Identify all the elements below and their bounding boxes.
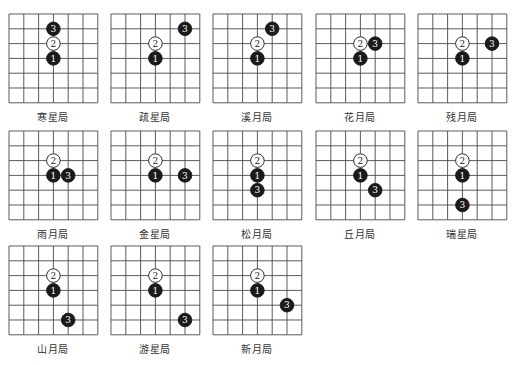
move-number: 1 (358, 54, 364, 64)
white-stone-2: 2 (354, 37, 368, 51)
opening-name-label: 溪月局 (206, 109, 308, 124)
move-number: 3 (182, 171, 188, 181)
opening-name-label: 寒星局 (2, 109, 104, 124)
white-stone-2: 2 (354, 154, 368, 168)
opening-name-label: 游星局 (104, 341, 206, 356)
move-number: 1 (255, 171, 261, 181)
go-board-grid: 123 (212, 13, 301, 102)
go-board-grid: 123 (212, 130, 301, 219)
opening-name-label: 山月局 (2, 341, 104, 356)
black-stone-1: 1 (354, 169, 368, 183)
board-11: 123山月局 (8, 245, 98, 363)
black-stone-1: 1 (251, 169, 265, 183)
black-stone-3: 3 (265, 22, 279, 36)
move-number: 2 (358, 156, 364, 166)
move-number: 1 (51, 54, 57, 64)
board-7: 123金星局 (110, 130, 200, 248)
black-stone-3: 3 (61, 169, 75, 183)
black-stone-1: 1 (456, 169, 470, 183)
board-2: 123疏星局 (110, 13, 200, 131)
board-10: 123瑞星局 (417, 130, 507, 248)
move-number: 2 (460, 156, 466, 166)
go-board-grid: 123 (110, 130, 199, 219)
move-number: 3 (51, 24, 57, 34)
move-number: 2 (255, 39, 261, 49)
move-number: 2 (51, 39, 57, 49)
board-1: 123寒星局 (8, 13, 98, 131)
white-stone-2: 2 (47, 37, 61, 51)
board-9: 123丘月局 (315, 130, 405, 248)
white-stone-2: 2 (149, 37, 163, 51)
opening-name-label: 雨月局 (2, 226, 104, 241)
move-number: 1 (153, 54, 159, 64)
black-stone-3: 3 (251, 183, 265, 197)
go-board-grid: 123 (315, 13, 404, 102)
go-board-grid: 123 (110, 13, 199, 102)
move-number: 2 (153, 271, 159, 281)
opening-name-label: 新月局 (206, 341, 308, 356)
white-stone-2: 2 (149, 269, 163, 283)
white-stone-2: 2 (456, 37, 470, 51)
black-stone-3: 3 (485, 37, 499, 51)
move-number: 2 (153, 39, 159, 49)
go-board-grid: 123 (417, 13, 506, 102)
move-number: 3 (255, 185, 261, 195)
move-number: 3 (372, 185, 378, 195)
black-stone-1: 1 (149, 284, 163, 298)
black-stone-1: 1 (456, 52, 470, 66)
go-board-grid: 123 (212, 245, 301, 334)
black-stone-1: 1 (47, 169, 61, 183)
move-number: 2 (153, 156, 159, 166)
opening-name-label: 丘月局 (309, 226, 411, 241)
board-12: 123游星局 (110, 245, 200, 363)
board-13: 123新月局 (212, 245, 302, 363)
black-stone-3: 3 (47, 22, 61, 36)
black-stone-3: 3 (178, 169, 192, 183)
move-number: 2 (460, 39, 466, 49)
move-number: 2 (51, 156, 57, 166)
board-3: 123溪月局 (212, 13, 302, 131)
go-board-grid: 123 (8, 13, 97, 102)
move-number: 3 (182, 315, 188, 325)
white-stone-2: 2 (149, 154, 163, 168)
go-board-grid: 123 (8, 130, 97, 219)
black-stone-3: 3 (178, 22, 192, 36)
white-stone-2: 2 (251, 154, 265, 168)
opening-name-label: 疏星局 (104, 109, 206, 124)
go-board-grid: 123 (110, 245, 199, 334)
move-number: 1 (255, 54, 261, 64)
move-number: 1 (255, 286, 261, 296)
go-board-grid: 123 (417, 130, 506, 219)
move-number: 3 (460, 200, 466, 210)
move-number: 1 (51, 286, 57, 296)
white-stone-2: 2 (47, 269, 61, 283)
opening-name-label: 松月局 (206, 226, 308, 241)
move-number: 2 (255, 271, 261, 281)
move-number: 3 (65, 171, 71, 181)
move-number: 3 (489, 39, 495, 49)
black-stone-3: 3 (61, 313, 75, 327)
white-stone-2: 2 (47, 154, 61, 168)
board-5: 123残月局 (417, 13, 507, 131)
black-stone-3: 3 (368, 183, 382, 197)
move-number: 1 (460, 54, 466, 64)
move-number: 3 (284, 300, 290, 310)
move-number: 3 (372, 39, 378, 49)
black-stone-1: 1 (251, 52, 265, 66)
black-stone-1: 1 (47, 284, 61, 298)
black-stone-1: 1 (149, 169, 163, 183)
black-stone-1: 1 (251, 284, 265, 298)
black-stone-3: 3 (456, 198, 470, 212)
move-number: 2 (255, 156, 261, 166)
board-4: 123花月局 (315, 13, 405, 131)
move-number: 2 (51, 271, 57, 281)
go-board-grid: 123 (8, 245, 97, 334)
move-number: 3 (182, 24, 188, 34)
move-number: 3 (65, 315, 71, 325)
opening-name-label: 金星局 (104, 226, 206, 241)
black-stone-3: 3 (280, 298, 294, 312)
move-number: 1 (153, 171, 159, 181)
move-number: 1 (460, 171, 466, 181)
move-number: 1 (358, 171, 364, 181)
black-stone-1: 1 (149, 52, 163, 66)
